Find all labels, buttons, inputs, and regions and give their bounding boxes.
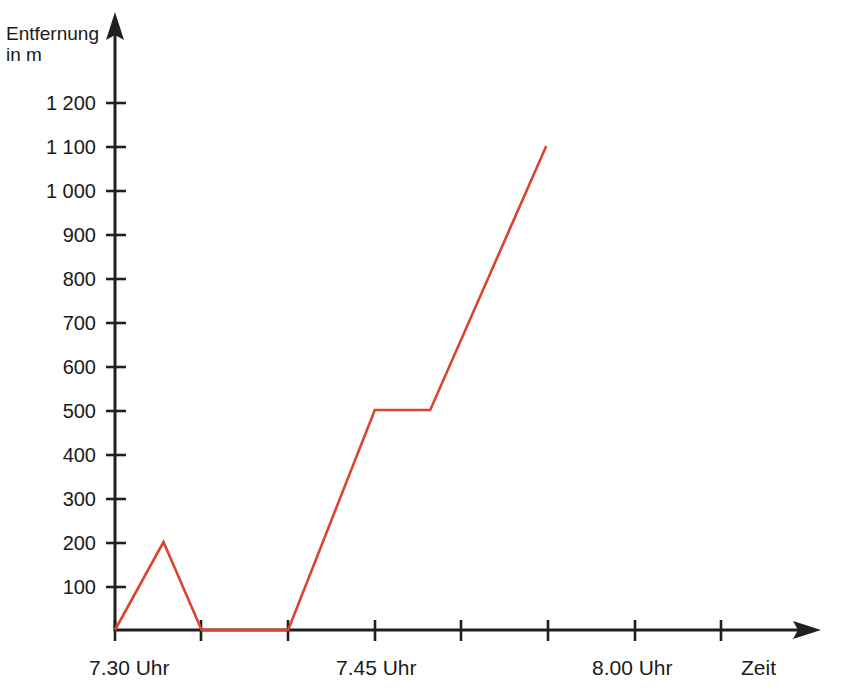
y-tick-label-200: 200 bbox=[63, 532, 96, 554]
y-tick-label-1000: 1 000 bbox=[46, 180, 96, 202]
y-tick-label-1100: 1 100 bbox=[46, 136, 96, 158]
chart-container: Entfernung in m 1 2 bbox=[0, 0, 843, 700]
y-axis-label-line2: in m bbox=[6, 44, 42, 65]
x-tick-label-745: 7.45 Uhr bbox=[336, 656, 417, 679]
y-tick-label-800: 800 bbox=[63, 268, 96, 290]
x-axis-label: Zeit bbox=[741, 656, 776, 679]
y-tick-label-900: 900 bbox=[63, 224, 96, 246]
y-axis bbox=[106, 12, 124, 631]
y-tick-label-600: 600 bbox=[63, 356, 96, 378]
line-chart: Entfernung in m 1 2 bbox=[0, 0, 843, 700]
y-tick-label-100: 100 bbox=[63, 576, 96, 598]
x-axis-tick-labels: 7.30 Uhr 7.45 Uhr 8.00 Uhr Zeit bbox=[89, 656, 776, 679]
y-axis-tick-labels: 1 200 1 100 1 000 900 800 700 600 500 40… bbox=[46, 92, 96, 598]
x-tick-label-730: 7.30 Uhr bbox=[89, 656, 170, 679]
y-tick-label-300: 300 bbox=[63, 488, 96, 510]
y-axis-label-line1: Entfernung bbox=[6, 23, 99, 44]
x-tick-label-800: 8.00 Uhr bbox=[592, 656, 673, 679]
y-tick-label-700: 700 bbox=[63, 312, 96, 334]
y-tick-label-400: 400 bbox=[63, 444, 96, 466]
y-tick-label-1200: 1 200 bbox=[46, 92, 96, 114]
data-series-line bbox=[115, 146, 546, 630]
y-tick-label-500: 500 bbox=[63, 400, 96, 422]
